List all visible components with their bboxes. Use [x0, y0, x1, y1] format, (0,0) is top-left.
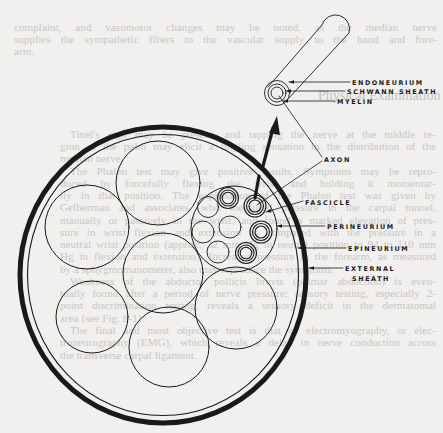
- fascicles: [45, 141, 277, 387]
- arrow-head: [269, 116, 280, 135]
- magnified-nerve-fiber: [265, 15, 350, 106]
- fascicle-lower-left: [56, 281, 128, 353]
- unmyelinated-fiber: [219, 216, 241, 238]
- fascicle-center: [123, 233, 203, 313]
- label-endoneurium: ENDONEURIUM: [352, 79, 424, 87]
- fascicle-top: [116, 141, 200, 225]
- label-epineurium: EPINEURIUM: [348, 245, 409, 253]
- label-external-sheath-line1: EXTERNAL: [345, 265, 395, 273]
- myelinated-fiber: [218, 188, 239, 209]
- myelinated-fiber: [250, 221, 272, 243]
- myelin-ring: [271, 87, 283, 99]
- label-external-sheath-line2: SHEATH: [352, 275, 390, 283]
- leader-arrowheads: [266, 80, 314, 269]
- external-sheath-ring: [20, 127, 306, 423]
- nerve-cross-section-diagram: ENDONEURIUM SCHWANN SHEATH MYELIN AXON F…: [0, 0, 443, 433]
- unmyelinated-fiber: [198, 197, 219, 218]
- nerve-fibers: [192, 188, 272, 264]
- label-perineurium: PERINEURIUM: [327, 223, 395, 231]
- label-fascicle: FASCICLE: [305, 199, 351, 207]
- unmyelinated-fiber: [192, 221, 214, 243]
- unmyelinated-fiber: [207, 241, 229, 263]
- fiber-tube: [268, 15, 350, 99]
- myelinated-fiber: [236, 243, 257, 264]
- fascicle-upper-left: [45, 185, 129, 269]
- fascicle-lower-right: [195, 267, 277, 349]
- label-myelin: MYELIN: [337, 98, 374, 106]
- label-schwann-sheath: SCHWANN SHEATH: [347, 88, 437, 96]
- label-axon: AXON: [324, 156, 351, 164]
